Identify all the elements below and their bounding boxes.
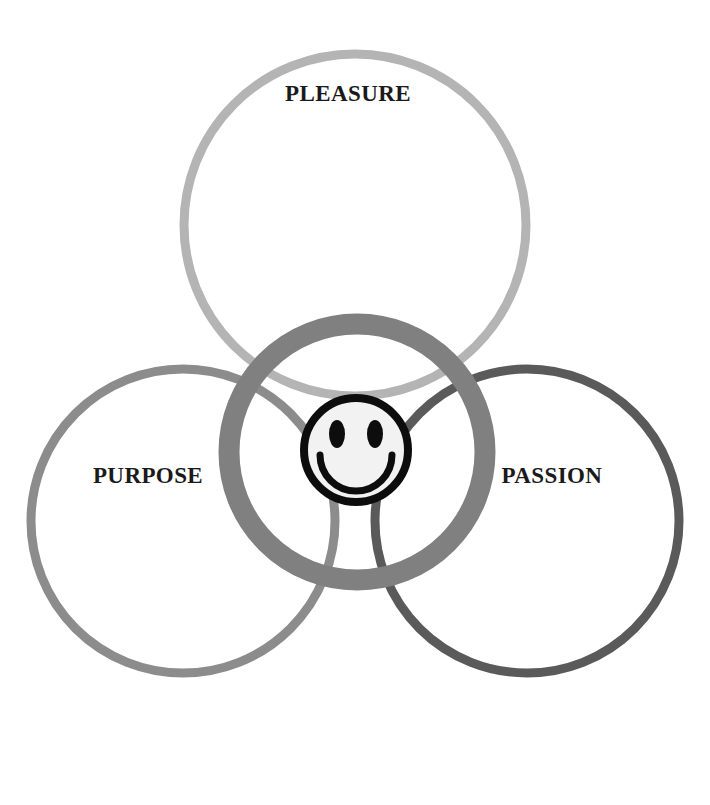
passion-circle[interactable]	[375, 369, 679, 673]
pleasure-label: PLEASURE	[285, 81, 411, 106]
purpose-circle[interactable]	[31, 369, 335, 673]
venn-diagram-canvas: PLEASURE PURPOSE PASSION	[0, 0, 710, 805]
smiley-left-eye-icon	[329, 420, 345, 448]
smiley-face-icon	[304, 398, 408, 502]
smiley-right-eye-icon	[367, 420, 383, 448]
venn-diagram-svg: PLEASURE PURPOSE PASSION	[0, 0, 710, 805]
passion-label: PASSION	[502, 463, 603, 488]
purpose-label: PURPOSE	[93, 463, 203, 488]
